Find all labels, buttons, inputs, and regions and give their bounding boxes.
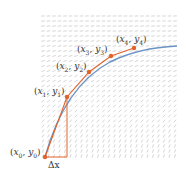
euler-point-0 <box>43 155 47 159</box>
delta-x-label: Δx <box>48 160 60 170</box>
euler-point-1 <box>65 95 69 99</box>
euler-method-diagram: (x0, y0) (x1, y1) (x2, y2) (x3, y3) (x4,… <box>0 0 186 174</box>
point-label-0: (x0, y0) <box>10 147 41 159</box>
point-label-3: (x3, y3) <box>77 44 108 56</box>
euler-point-4 <box>132 46 136 50</box>
point-label-1: (x1, y1) <box>34 86 65 98</box>
point-label-4: (x4, y4) <box>116 34 147 46</box>
euler-point-3 <box>109 54 113 58</box>
euler-point-2 <box>87 70 91 74</box>
point-label-2: (x2, y2) <box>56 61 87 73</box>
